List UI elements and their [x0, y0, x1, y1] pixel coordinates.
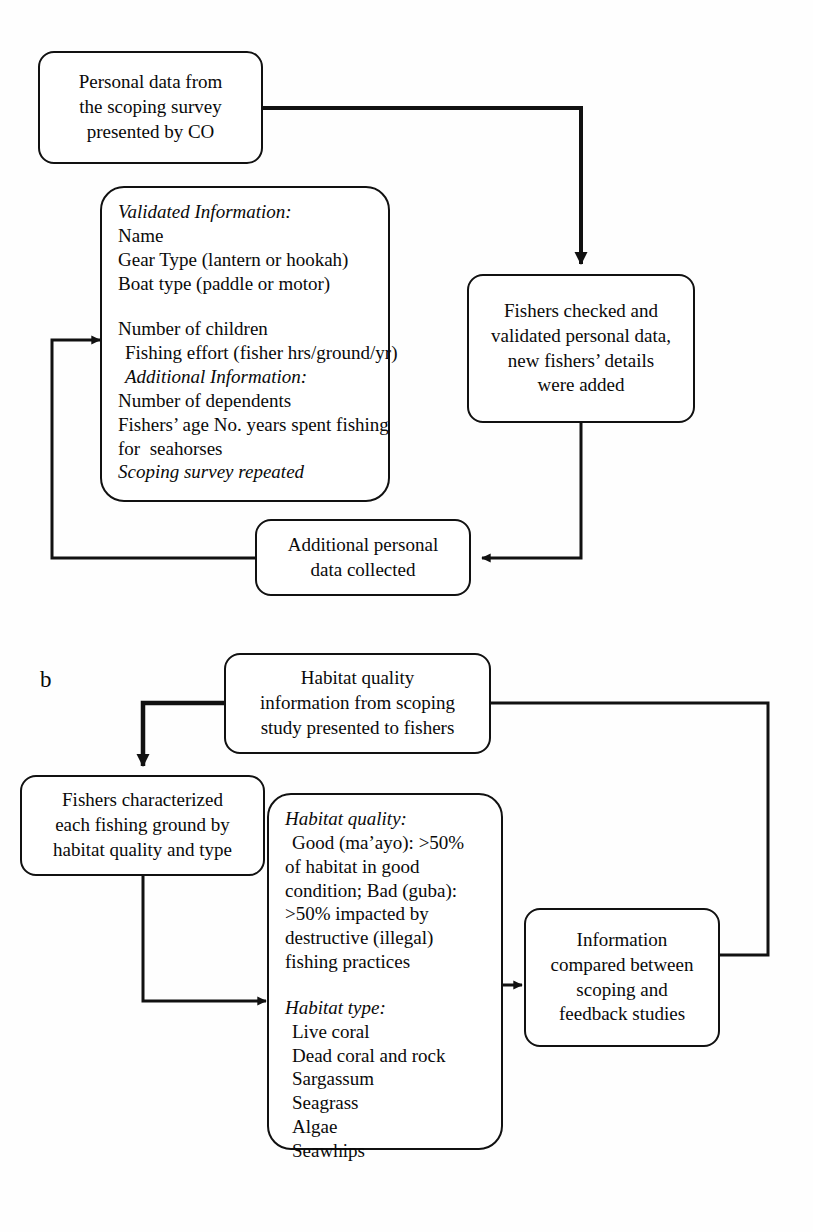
habitat-line: Live coral — [285, 1020, 497, 1044]
connector-fishers-checked-to-additional-data — [482, 423, 581, 558]
habitat-line: fishing practices — [285, 950, 497, 974]
habitat-line: Dead coral and rock — [285, 1044, 497, 1068]
node-label: Fishers characterized each fishing groun… — [22, 788, 263, 862]
info-line: Number of dependents — [118, 389, 384, 413]
info-line: Name — [118, 224, 384, 248]
info-line: Number of children — [118, 317, 384, 341]
node-label: Habitat quality information from scoping… — [226, 666, 489, 740]
habitat-line: Good (ma’ayo): >50% — [285, 831, 497, 855]
info-line: Validated Information: — [118, 200, 384, 224]
habitat-line: Seawhips — [285, 1139, 497, 1163]
node-validated-information-box[interactable]: Validated Information: Name Gear Type (l… — [100, 186, 390, 502]
node-personal-data-from-scoping-survey[interactable]: Personal data from the scoping survey pr… — [38, 51, 263, 164]
info-line-spacer — [118, 295, 384, 317]
info-line: Fishers’ age No. years spent fishing — [118, 413, 384, 437]
info-line: Gear Type (lantern or hookah) — [118, 248, 384, 272]
node-additional-personal-data-collected[interactable]: Additional personal data collected — [255, 519, 471, 596]
habitat-line: condition; Bad (guba): — [285, 879, 497, 903]
info-line: Fishing effort (fisher hrs/ground/yr) — [118, 341, 384, 365]
figure-canvas: Personal data from the scoping survey pr… — [0, 0, 813, 1232]
node-fishers-checked-validated-data[interactable]: Fishers checked and validated personal d… — [467, 274, 695, 423]
node-label: Additional personal data collected — [257, 533, 469, 582]
habitat-line: >50% impacted by — [285, 902, 497, 926]
node-habitat-quality-information[interactable]: Habitat quality information from scoping… — [224, 653, 491, 754]
habitat-line-spacer — [285, 974, 497, 996]
panel-label-b: b — [40, 668, 52, 691]
habitat-line: of habitat in good — [285, 855, 497, 879]
habitat-line: Seagrass — [285, 1091, 497, 1115]
node-label: Information compared between scoping and… — [526, 928, 718, 1027]
node-label: Personal data from the scoping survey pr… — [40, 70, 261, 144]
habitat-line: Algae — [285, 1115, 497, 1139]
connector-fishers-characterized-to-habitat-box — [143, 876, 266, 1001]
info-line: Additional Information: — [118, 365, 384, 389]
info-line: Boat type (paddle or motor) — [118, 272, 384, 296]
node-label: Fishers checked and validated personal d… — [469, 299, 693, 398]
habitat-box-lines: Habitat quality: Good (ma’ayo): >50% of … — [269, 795, 501, 1173]
info-line: for seahorses — [118, 437, 384, 461]
habitat-line: Habitat type: — [285, 996, 497, 1020]
node-information-compared[interactable]: Information compared between scoping and… — [524, 908, 720, 1047]
connector-habitat-info-to-fishers-characterized — [143, 703, 225, 766]
node-fishers-characterized-fishing-ground[interactable]: Fishers characterized each fishing groun… — [20, 775, 265, 876]
habitat-line: Sargassum — [285, 1067, 497, 1091]
habitat-line: Habitat quality: — [285, 807, 497, 831]
habitat-line: destructive (illegal) — [285, 926, 497, 950]
node-habitat-quality-type-box[interactable]: Habitat quality: Good (ma’ayo): >50% of … — [267, 793, 503, 1150]
validated-information-lines: Validated Information: Name Gear Type (l… — [102, 188, 388, 494]
info-line: Scoping survey repeated — [118, 460, 384, 484]
